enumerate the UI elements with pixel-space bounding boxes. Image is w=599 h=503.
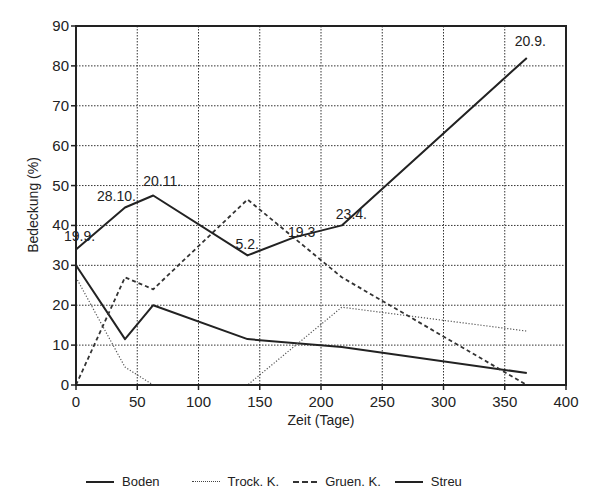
date-annotation: 5.2. — [236, 236, 259, 252]
date-annotation: 19.9. — [64, 228, 95, 244]
y-tick-label: 20 — [52, 296, 69, 313]
line-chart: 0501001502002503003504000102030405060708… — [0, 0, 599, 503]
date-annotation: 23.4. — [336, 206, 367, 222]
legend-item-trock: Trock. K. — [192, 474, 280, 489]
x-tick-label: 350 — [492, 393, 517, 410]
date-annotation: 20.11. — [143, 173, 181, 189]
date-annotation: 19.3 — [288, 224, 315, 240]
axis-ticks: 0501001502002503003504000102030405060708… — [52, 17, 578, 410]
solid-line-icon — [86, 481, 114, 483]
y-tick-label: 50 — [52, 177, 69, 194]
legend-label: Streu — [431, 474, 462, 489]
legend-label: Boden — [122, 474, 160, 489]
y-tick-label: 10 — [52, 336, 69, 353]
y-tick-label: 0 — [61, 376, 69, 393]
legend-item-boden: Boden — [86, 474, 160, 489]
y-tick-label: 30 — [52, 256, 69, 273]
y-tick-label: 90 — [52, 17, 69, 34]
x-tick-label: 0 — [72, 393, 80, 410]
dashed-line-icon — [293, 481, 317, 483]
chart-legend: Boden Trock. K. Gruen. K. Streu — [86, 474, 476, 489]
legend-item-streu: Streu — [395, 474, 462, 489]
x-tick-label: 50 — [129, 393, 146, 410]
x-tick-label: 400 — [553, 393, 578, 410]
solid-line-icon — [395, 481, 423, 483]
x-tick-label: 100 — [186, 393, 211, 410]
x-tick-label: 200 — [308, 393, 333, 410]
x-tick-label: 250 — [370, 393, 395, 410]
chart-grid — [76, 26, 566, 385]
y-axis-title: Bedeckung (%) — [25, 157, 41, 253]
x-tick-label: 150 — [247, 393, 272, 410]
y-tick-label: 80 — [52, 57, 69, 74]
x-tick-label: 300 — [431, 393, 456, 410]
chart-series — [76, 58, 527, 385]
legend-item-gruen: Gruen. K. — [293, 474, 381, 489]
y-tick-label: 70 — [52, 97, 69, 114]
legend-label: Trock. K. — [228, 474, 280, 489]
x-axis-title: Zeit (Tage) — [288, 412, 355, 428]
series-boden — [76, 265, 527, 373]
y-tick-label: 60 — [52, 137, 69, 154]
date-annotation: 20.9. — [515, 33, 546, 49]
legend-label: Gruen. K. — [325, 474, 381, 489]
plot-frame — [76, 26, 566, 385]
dotted-line-icon — [192, 481, 220, 482]
series-trock-k — [76, 277, 527, 385]
date-annotation: 28.10. — [97, 188, 136, 204]
